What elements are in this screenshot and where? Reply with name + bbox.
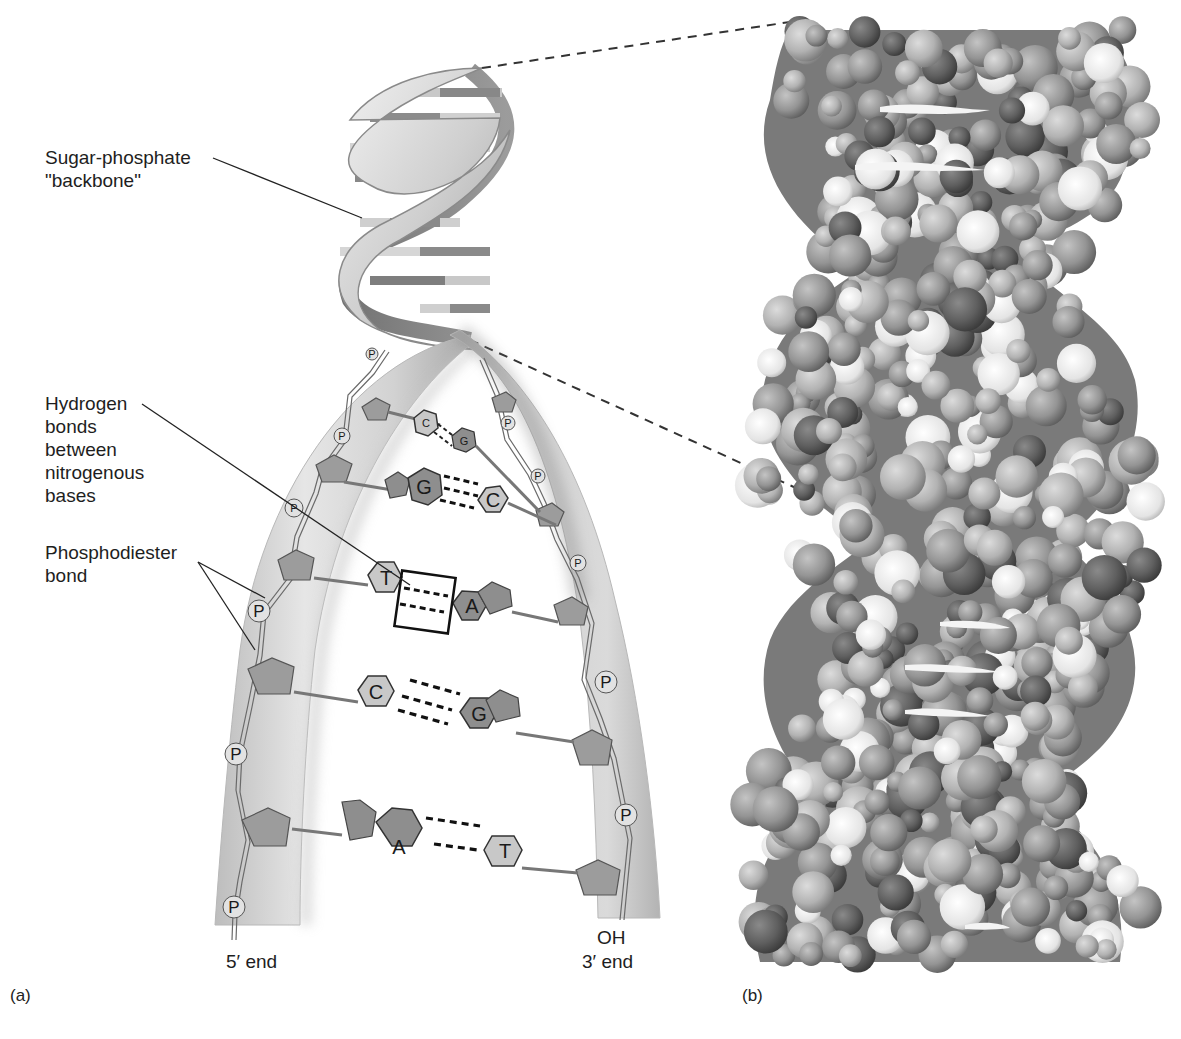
label-phosphodiester-bond: Phosphodiester bond [45,541,177,587]
phosphate-icon: P [248,600,270,622]
phosphate-icon: P [334,428,350,444]
label-line: Sugar-phosphate [45,146,191,169]
svg-text:P: P [253,602,264,621]
label-line: Hydrogen [45,392,144,415]
space-filling-model [730,16,1165,973]
phosphate-icon: P [223,896,245,918]
double-helix-overview [339,68,510,350]
svg-text:P: P [504,417,511,429]
phosphate-icon: P [531,469,545,483]
label-line: nitrogenous [45,461,144,484]
panel-label-b: (b) [742,986,763,1006]
label-5-prime-end: 5′ end [226,950,277,973]
svg-text:P: P [228,898,239,917]
svg-text:C: C [422,417,430,429]
label-3-prime-end: 3′ end [582,950,633,973]
panel-label-a: (a) [10,986,31,1006]
label-line: bonds [45,415,144,438]
phosphate-icon: P [615,804,637,826]
base-pair-3: C G [294,676,574,742]
svg-text:C: C [369,681,383,703]
svg-text:T: T [380,567,392,589]
svg-text:P: P [600,673,611,692]
phosphate-icon: P [225,743,247,765]
svg-text:P: P [368,348,375,360]
svg-text:G: G [471,703,487,725]
phosphate-icon: P [595,671,617,693]
svg-text:P: P [534,470,541,482]
label-line: bases [45,484,144,507]
label-oh: OH [597,926,626,949]
label-line: Phosphodiester [45,541,177,564]
label-line: bond [45,564,177,587]
label-line: between [45,438,144,461]
phosphate-icon: P [501,416,515,430]
svg-text:T: T [499,840,511,862]
phosphate-icon: P [366,348,378,360]
base-pair-2: T A [314,562,558,633]
label-line: "backbone" [45,169,191,192]
svg-text:P: P [338,430,345,442]
base-pair-4: A T [292,800,578,873]
svg-text:A: A [465,595,479,617]
svg-text:C: C [486,489,500,511]
label-sugar-phosphate: Sugar-phosphate "backbone" [45,146,191,192]
svg-text:P: P [230,745,241,764]
phosphate-icon: P [570,555,586,571]
svg-text:A: A [392,836,406,858]
label-hydrogen-bonds: Hydrogen bonds between nitrogenous bases [45,392,144,507]
svg-text:G: G [460,435,469,447]
svg-text:P: P [620,806,631,825]
svg-text:G: G [416,476,432,498]
svg-text:P: P [574,557,581,569]
